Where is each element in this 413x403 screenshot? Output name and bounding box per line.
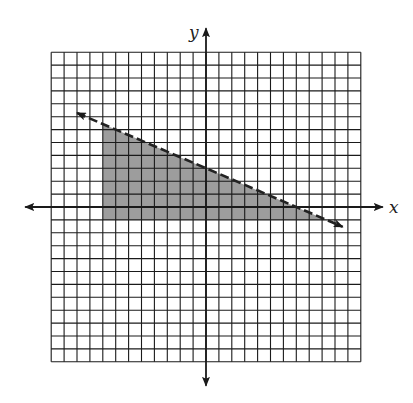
coordinate-graph: x y (0, 0, 413, 403)
axes (25, 28, 383, 386)
y-axis-label: y (188, 22, 199, 42)
x-axis-label: x (389, 197, 399, 217)
